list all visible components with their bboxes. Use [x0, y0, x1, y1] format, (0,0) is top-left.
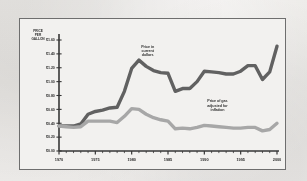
- x-axis-tick-label: 1995: [236, 157, 245, 162]
- y-axis-tick-label: $0.60: [46, 108, 55, 112]
- y-axis-title: PRICEPERGALLON: [31, 29, 45, 41]
- y-axis-tick-label: $0.40: [46, 122, 55, 126]
- y-axis-tick-label: $1.00: [46, 80, 55, 84]
- series-annotation-line: inflation: [210, 108, 225, 112]
- y-axis-tick-label: $1.20: [46, 66, 55, 70]
- y-axis-tick-label: $1.40: [46, 52, 55, 56]
- y-axis-tick-label: $0.00: [46, 149, 55, 153]
- series-annotation-line: dollars: [142, 53, 154, 57]
- y-axis-tick-label: $0.80: [46, 94, 55, 98]
- chart-plot-area: PRICEPERGALLON $0.00$0.20$0.40$0.60$0.80…: [19, 18, 286, 170]
- x-axis-tick-label: 1990: [200, 157, 208, 162]
- series-line: [59, 46, 277, 126]
- series-annotations: Price incurrentdollarsPrice of gasadjust…: [141, 45, 228, 112]
- x-axis-tick-label: 1970: [55, 157, 63, 162]
- data-series-group: [59, 46, 277, 131]
- x-axis-tick-label: 1975: [91, 157, 100, 162]
- y-axis-tick-label: $1.60: [46, 38, 55, 42]
- line-chart: PRICEPERGALLON $0.00$0.20$0.40$0.60$0.80…: [19, 18, 286, 170]
- x-axis-tick-label: 1980: [127, 157, 135, 162]
- y-axis-title-line: GALLON: [31, 37, 45, 41]
- y-axis-tick-label: $0.20: [46, 135, 55, 139]
- x-axis-tick-label: 1985: [164, 157, 173, 162]
- x-axis-tick-label: 2000: [273, 157, 281, 162]
- x-axis: 1970197519801985199019952000: [55, 151, 281, 162]
